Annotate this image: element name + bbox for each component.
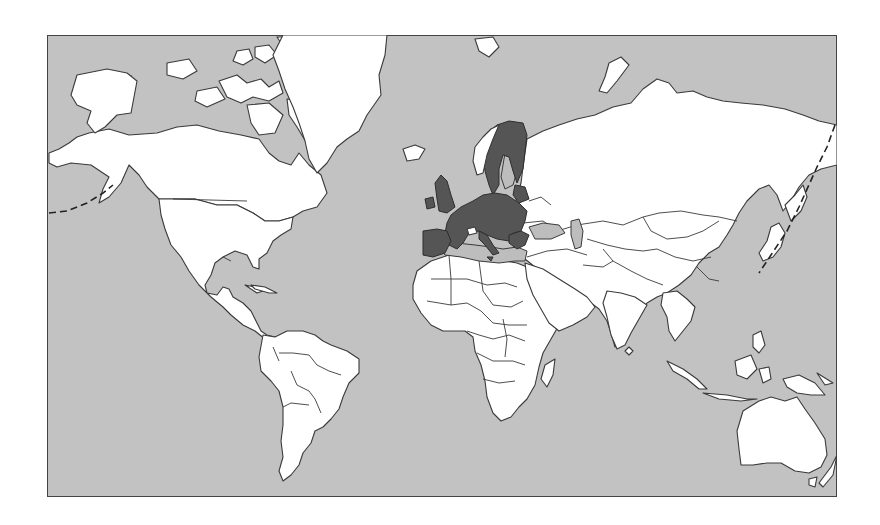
eu-ireland: [425, 197, 435, 209]
tasmania: [809, 477, 817, 487]
switzerland: [467, 227, 477, 235]
world-map: [47, 35, 837, 497]
world-map-svg: [47, 35, 837, 497]
